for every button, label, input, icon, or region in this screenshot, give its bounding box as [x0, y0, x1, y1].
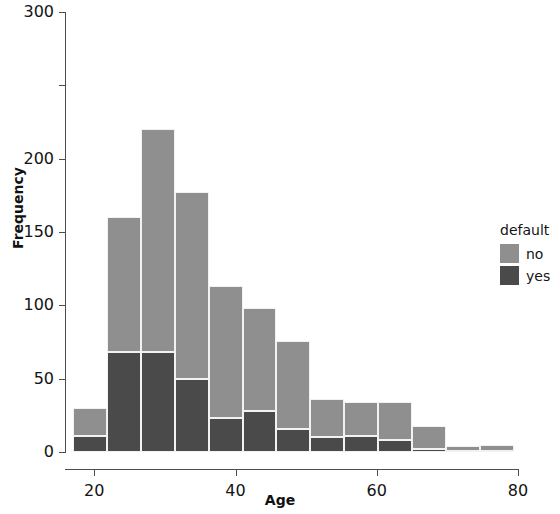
legend-swatch — [500, 266, 519, 285]
bar-segment-no — [344, 402, 378, 436]
histogram-bar — [175, 12, 209, 452]
bar-segment-no — [243, 308, 277, 411]
y-axis-tick-mark — [59, 452, 65, 453]
y-axis-tick-mark — [59, 85, 65, 86]
y-axis-tick-label: 100 — [23, 295, 54, 315]
histogram-bar — [209, 12, 243, 452]
y-axis-title: Frequency — [10, 138, 26, 278]
histogram-bar — [243, 12, 277, 452]
bar-segment-no — [412, 426, 446, 449]
legend-entry: no — [500, 244, 558, 263]
legend-entry: yes — [500, 266, 558, 285]
histogram-bar — [344, 12, 378, 452]
y-axis-tick-label: 150 — [23, 222, 54, 242]
y-axis-tick-label: 200 — [23, 149, 54, 169]
bar-segment-yes — [73, 436, 107, 452]
x-axis-tick-mark — [236, 469, 237, 476]
bar-segment-no — [107, 217, 141, 352]
y-axis-tick-mark — [59, 12, 65, 13]
legend-swatch — [500, 244, 519, 263]
x-axis-tick-mark — [94, 469, 95, 476]
histogram-bar — [446, 12, 480, 452]
bar-segment-no — [378, 402, 412, 440]
bar-segment-yes — [412, 449, 446, 452]
plot-area — [66, 12, 518, 452]
histogram-chart: 050100150200300 20406080 Age Frequency d… — [0, 0, 560, 514]
histogram-bar — [276, 12, 310, 452]
y-axis-tick-mark — [59, 232, 65, 233]
histogram-bar — [378, 12, 412, 452]
bar-segment-yes — [243, 411, 277, 452]
y-axis-tick-label: 50 — [34, 369, 54, 389]
x-axis-title: Age — [0, 492, 560, 508]
bar-segment-no — [310, 399, 344, 437]
x-axis-tick-mark — [518, 469, 519, 476]
bar-segment-no — [480, 445, 514, 451]
legend: default noyes — [500, 222, 558, 288]
x-axis-tick-mark — [377, 469, 378, 476]
legend-title: default — [500, 222, 558, 238]
bar-segment-no — [209, 286, 243, 418]
bar-segment-yes — [344, 436, 378, 452]
bar-segment-yes — [310, 437, 344, 452]
bar-segment-yes — [141, 352, 175, 452]
bar-segment-yes — [276, 429, 310, 452]
bar-segment-yes — [378, 440, 412, 452]
legend-label: no — [526, 246, 543, 262]
y-axis-tick-label: 0 — [44, 442, 54, 462]
histogram-bar — [73, 12, 107, 452]
histogram-bar — [310, 12, 344, 452]
bar-segment-no — [446, 446, 480, 450]
y-axis-tick-mark — [59, 159, 65, 160]
bar-segment-yes — [107, 352, 141, 452]
y-axis-tick-label: 300 — [23, 2, 54, 22]
histogram-bar — [412, 12, 446, 452]
histogram-bar — [141, 12, 175, 452]
y-axis-tick-mark — [59, 379, 65, 380]
bar-segment-no — [73, 408, 107, 436]
histogram-bar — [107, 12, 141, 452]
x-axis-line — [65, 469, 518, 470]
legend-label: yes — [526, 268, 550, 284]
bar-segment-no — [175, 192, 209, 378]
legend-entries: noyes — [500, 244, 558, 285]
bar-segment-no — [141, 129, 175, 352]
y-axis-tick-mark — [59, 305, 65, 306]
bar-segment-yes — [175, 379, 209, 452]
bar-segment-no — [276, 341, 310, 429]
bar-segment-yes — [209, 418, 243, 452]
